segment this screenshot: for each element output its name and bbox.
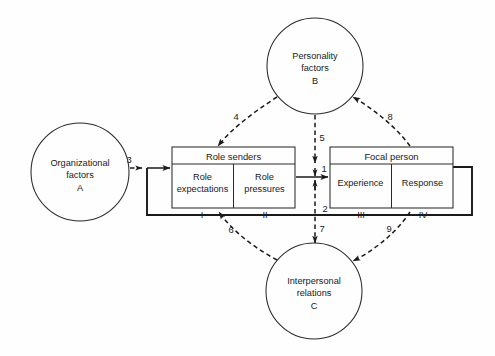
connector-8: [353, 97, 410, 146]
role-senders-title: Role senders: [206, 151, 262, 162]
personality-factors-letter: B: [312, 76, 318, 86]
arrow-label-9: 9: [386, 223, 391, 234]
arrow-label-8: 8: [387, 111, 392, 122]
connector-6: [219, 212, 277, 260]
roman-numeral-role-pressures: II: [262, 210, 267, 220]
role-episode-diagram: Organizational factors A Personality fac…: [0, 0, 495, 356]
circle-organizational-factors: Organizational factors A: [31, 123, 129, 221]
response-label: Response: [402, 178, 443, 188]
arrow-label-3: 3: [126, 154, 131, 165]
diagram-canvas: Organizational factors A Personality fac…: [0, 0, 495, 356]
role-pressures-line-2: pressures: [244, 184, 285, 194]
arrow-label-4: 4: [233, 111, 238, 122]
organizational-factors-letter: A: [77, 183, 84, 193]
arrow-label-7: 7: [319, 223, 324, 234]
role-expectations-line-1: Role: [193, 172, 212, 182]
focal-person-title: Focal person: [364, 151, 418, 162]
personality-factors-line-2: factors: [301, 63, 329, 73]
roman-numeral-experience: III: [357, 210, 365, 220]
circle-personality-factors: Personality factors B: [267, 18, 363, 114]
organizational-factors-line-2: factors: [66, 170, 94, 180]
experience-label: Experience: [338, 178, 384, 188]
box-role-senders: Role senders Role expectations Role pres…: [172, 147, 295, 208]
arrow-label-5: 5: [319, 132, 324, 143]
interpersonal-relations-line-1: Interpersonal: [287, 276, 341, 286]
personality-factors-line-1: Personality: [292, 51, 338, 61]
circle-interpersonal-relations: Interpersonal relations C: [266, 243, 362, 339]
box-focal-person: Focal person Experience Response: [330, 147, 453, 208]
interpersonal-relations-line-2: relations: [297, 288, 332, 298]
connector-4: [218, 97, 277, 146]
roman-numeral-response: IV: [419, 210, 429, 220]
arrow-label-1: 1: [321, 163, 326, 174]
arrow-label-2: 2: [322, 203, 327, 214]
interpersonal-relations-letter: C: [311, 301, 318, 311]
arrow-label-6: 6: [228, 224, 233, 235]
role-expectations-line-2: expectations: [177, 184, 229, 194]
role-pressures-line-1: Role: [255, 172, 274, 182]
roman-numeral-role-expectations: I: [201, 210, 204, 220]
organizational-factors-line-1: Organizational: [50, 158, 109, 168]
